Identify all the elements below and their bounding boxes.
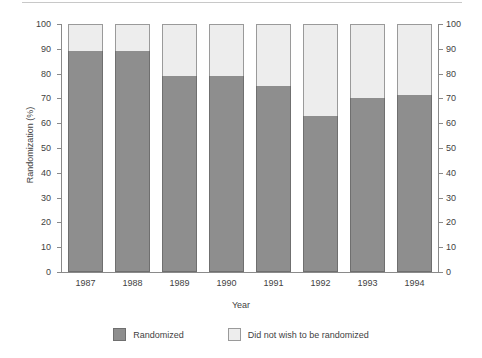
y-tick-label-left: 70 [41, 94, 51, 103]
y-tick-label-right: 50 [446, 144, 456, 153]
bar-segment-not-randomized-1988 [115, 24, 150, 51]
bar-1989 [162, 24, 197, 272]
y-tick-label-left: 0 [46, 268, 51, 277]
bar-1988 [115, 24, 150, 272]
y-tick-mark-left [57, 49, 61, 50]
x-tick-label-1989: 1989 [155, 279, 205, 288]
bar-segment-not-randomized-1990 [209, 24, 244, 76]
bar-segment-randomized-1987 [68, 51, 103, 272]
y-tick-mark-right [439, 49, 443, 50]
y-tick-label-left: 40 [41, 169, 51, 178]
bar-segment-randomized-1991 [256, 86, 291, 272]
y-tick-mark-left [57, 198, 61, 199]
plot-area [62, 24, 438, 272]
y-tick-label-left: 60 [41, 119, 51, 128]
y-tick-label-left: 30 [41, 194, 51, 203]
chart-legend: RandomizedDid not wish to be randomized [0, 328, 482, 341]
y-tick-label-left: 50 [41, 144, 51, 153]
y-tick-mark-right [439, 272, 443, 273]
y-tick-mark-right [439, 98, 443, 99]
y-tick-mark-right [439, 198, 443, 199]
bar-segment-not-randomized-1987 [68, 24, 103, 51]
bar-1990 [209, 24, 244, 272]
y-tick-label-right: 20 [446, 218, 456, 227]
y-tick-label-right: 10 [446, 243, 456, 252]
y-tick-mark-left [57, 272, 61, 273]
bar-segment-not-randomized-1991 [256, 24, 291, 86]
x-axis-title: Year [0, 300, 482, 310]
x-tick-label-1994: 1994 [390, 279, 440, 288]
bar-1992 [303, 24, 338, 272]
bar-segment-not-randomized-1992 [303, 24, 338, 116]
y-tick-label-right: 30 [446, 194, 456, 203]
bar-segment-randomized-1993 [350, 98, 385, 272]
y-tick-mark-right [439, 123, 443, 124]
y-tick-label-right: 0 [446, 268, 451, 277]
bar-1994 [397, 24, 432, 272]
dark-gray-swatch [113, 328, 126, 341]
light-gray-swatch [228, 328, 241, 341]
y-tick-mark-left [57, 123, 61, 124]
y-tick-label-left: 100 [36, 20, 51, 29]
bar-segment-randomized-1990 [209, 76, 244, 272]
x-tick-label-1990: 1990 [202, 279, 252, 288]
y-tick-mark-right [439, 148, 443, 149]
y-tick-mark-left [57, 74, 61, 75]
y-tick-mark-left [57, 222, 61, 223]
bar-segment-not-randomized-1989 [162, 24, 197, 76]
y-tick-mark-left [57, 98, 61, 99]
bar-segment-not-randomized-1993 [350, 24, 385, 98]
legend-label: Did not wish to be randomized [248, 330, 369, 340]
y-tick-label-left: 10 [41, 243, 51, 252]
x-axis-spine [61, 272, 439, 273]
bar-segment-randomized-1989 [162, 76, 197, 272]
y-tick-mark-right [439, 222, 443, 223]
bar-1987 [68, 24, 103, 272]
bar-segment-not-randomized-1994 [397, 24, 432, 95]
y-tick-label-left: 20 [41, 218, 51, 227]
y-tick-label-left: 90 [41, 45, 51, 54]
y-tick-mark-right [439, 74, 443, 75]
y-tick-mark-right [439, 173, 443, 174]
top-divider-rule [22, 2, 462, 3]
y-tick-mark-left [57, 173, 61, 174]
legend-entry-randomized: Randomized [113, 328, 184, 341]
y-tick-mark-right [439, 24, 443, 25]
y-tick-mark-left [57, 24, 61, 25]
x-tick-label-1988: 1988 [108, 279, 158, 288]
y-tick-mark-left [57, 247, 61, 248]
x-tick-label-1987: 1987 [61, 279, 111, 288]
x-tick-label-1993: 1993 [343, 279, 393, 288]
y-tick-label-right: 40 [446, 169, 456, 178]
bar-segment-randomized-1988 [115, 51, 150, 272]
chart-figure: 0010102020303040405050606070708080909010… [0, 0, 482, 358]
y-tick-mark-right [439, 247, 443, 248]
bar-segment-randomized-1994 [397, 95, 432, 272]
y-axis-title: Randomization (%) [25, 85, 35, 205]
bar-1993 [350, 24, 385, 272]
y-tick-label-right: 90 [446, 45, 456, 54]
y-tick-mark-left [57, 148, 61, 149]
x-tick-label-1991: 1991 [249, 279, 299, 288]
y-tick-label-right: 60 [446, 119, 456, 128]
y-tick-label-right: 100 [446, 20, 461, 29]
y-tick-label-left: 80 [41, 70, 51, 79]
y-tick-label-right: 80 [446, 70, 456, 79]
x-tick-label-1992: 1992 [296, 279, 346, 288]
bar-1991 [256, 24, 291, 272]
legend-label: Randomized [133, 330, 184, 340]
legend-entry-not-randomized: Did not wish to be randomized [228, 328, 369, 341]
bar-segment-randomized-1992 [303, 116, 338, 272]
y-tick-label-right: 70 [446, 94, 456, 103]
